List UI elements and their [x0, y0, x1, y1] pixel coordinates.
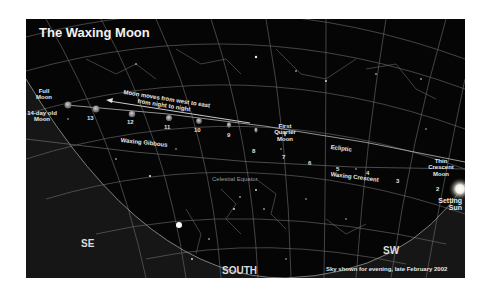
- page-title: The Waxing Moon: [39, 26, 150, 40]
- day-5: 5: [336, 166, 339, 172]
- caption: Sky shown for evening, late February 200…: [326, 266, 447, 272]
- direction-sw: SW: [383, 246, 399, 257]
- day-13: 13: [87, 115, 94, 121]
- day-2: 2: [436, 186, 439, 192]
- day-3: 3: [396, 178, 399, 184]
- day-8: 8: [252, 148, 255, 154]
- day-9: 9: [227, 132, 230, 138]
- day-7: 7: [282, 154, 285, 160]
- day-4: 4: [366, 170, 369, 176]
- sky-chart: The Waxing Moon Full Moon 14-day old Moo…: [26, 19, 465, 278]
- bright-star: [176, 222, 182, 228]
- celestial-equator-line: [26, 139, 465, 169]
- day-10: 10: [194, 127, 201, 133]
- thin-crescent-label: Thin Crescent Moon: [426, 158, 456, 177]
- day-12: 12: [127, 119, 134, 125]
- first-quarter-label: First Quarter Moon: [269, 123, 301, 142]
- setting-sun-label: Setting Sun: [434, 197, 462, 212]
- celestial-equator-label: Celestial Equator: [212, 176, 258, 182]
- direction-south: SOUTH: [222, 266, 257, 277]
- full-moon-label: Full Moon: [30, 88, 58, 101]
- ecliptic-line: [66, 105, 465, 162]
- day-6: 6: [308, 160, 311, 166]
- direction-se: SE: [81, 239, 94, 250]
- day-11: 11: [164, 124, 170, 130]
- old-moon-label: 14-day old Moon: [26, 110, 62, 123]
